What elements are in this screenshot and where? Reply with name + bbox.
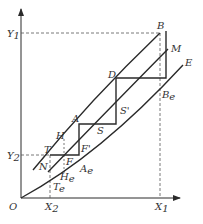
point-ae: Ae: [79, 163, 93, 176]
point-s-prime: S': [120, 105, 130, 116]
point-h: H: [55, 130, 65, 141]
point-be: Be: [161, 89, 175, 102]
staircase: [50, 31, 166, 155]
point-te: Te: [53, 181, 65, 194]
middle-curve: [48, 49, 168, 172]
x2-label: X2: [44, 201, 59, 214]
upper-curve: [33, 33, 160, 170]
point-e: E: [184, 57, 193, 68]
point-f: F: [65, 156, 74, 167]
point-f-prime: F': [80, 143, 91, 154]
y1-label: Y1: [7, 28, 20, 41]
origin-label: O: [9, 201, 17, 212]
y2-label: Y2: [7, 150, 20, 163]
point-d: D: [107, 69, 116, 80]
point-n: N: [38, 161, 49, 172]
diagram: O Y1 Y2 X2 X1 B M E D Be S' A S H T F' F…: [0, 0, 203, 224]
x1-label: X1: [154, 201, 169, 214]
point-s: S: [97, 125, 104, 136]
point-a: A: [71, 113, 79, 124]
point-m: M: [170, 43, 182, 54]
point-b: B: [156, 20, 164, 31]
